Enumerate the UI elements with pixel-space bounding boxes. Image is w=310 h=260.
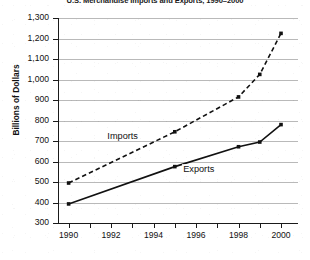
x-axis-tick-label: 2000 [261, 230, 301, 240]
x-axis-tick-label: 1992 [91, 230, 131, 240]
data-point-marker [67, 181, 71, 185]
y-axis-tick-label: 1,200 [9, 33, 49, 43]
y-axis-tick-label: 600 [9, 156, 49, 166]
data-point-marker [173, 130, 177, 134]
data-point-marker [258, 140, 262, 144]
data-point-marker [67, 202, 71, 206]
y-axis-tick-label: 400 [9, 197, 49, 207]
series-layer [58, 18, 298, 224]
y-axis-tick-label: 1,000 [9, 74, 49, 84]
y-axis-tick-label: 1,100 [9, 53, 49, 63]
x-axis-tick-label: 1998 [219, 230, 259, 240]
series-line-imports [69, 33, 281, 183]
data-point-marker [237, 95, 241, 99]
y-axis-tick-label: 500 [9, 176, 49, 186]
y-axis-tick-label: 900 [9, 94, 49, 104]
series-label-exports: Exports [182, 164, 215, 174]
plot-area: 3004005006007008009001,0001,1001,2001,30… [58, 18, 298, 223]
series-line-exports [69, 125, 281, 204]
x-axis-tick-label: 1994 [134, 230, 174, 240]
data-point-marker [237, 145, 241, 149]
y-axis-tick-label: 800 [9, 115, 49, 125]
data-point-marker [279, 32, 283, 36]
x-axis-tick-label: 1990 [49, 230, 89, 240]
y-axis-tick-label: 1,300 [9, 12, 49, 22]
data-point-marker [279, 123, 283, 127]
y-axis-tick-label: 700 [9, 135, 49, 145]
series-label-imports: Imports [106, 131, 139, 141]
chart-title: U.S. Merchandise Imports and Exports, 19… [0, 0, 310, 5]
y-axis-tick-label: 300 [9, 217, 49, 227]
data-point-marker [258, 73, 262, 77]
data-point-marker [173, 165, 177, 169]
chart-container: U.S. Merchandise Imports and Exports, 19… [0, 0, 310, 260]
x-axis-tick-label: 1996 [176, 230, 216, 240]
